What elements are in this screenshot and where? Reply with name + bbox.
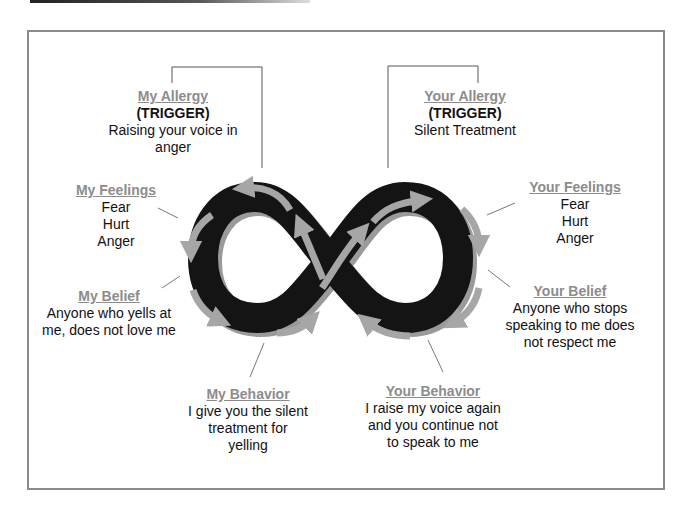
my-feelings-line-3: Anger bbox=[66, 233, 166, 250]
my-belief-label: My Belief Anyone who yells at me, does n… bbox=[34, 288, 184, 339]
my-allergy-trigger: (TRIGGER) bbox=[103, 105, 243, 122]
my-behavior-label: My Behavior I give you the silent treatm… bbox=[178, 386, 318, 454]
your-behavior-label: Your Behavior I raise my voice again and… bbox=[358, 383, 508, 451]
your-behavior-line-1: I raise my voice again bbox=[358, 400, 508, 417]
my-allergy-line-1: Raising your voice in bbox=[103, 122, 243, 139]
your-belief-label: Your Belief Anyone who stops speaking to… bbox=[500, 283, 640, 351]
your-allergy-trigger: (TRIGGER) bbox=[400, 105, 530, 122]
my-belief-line-2: me, does not love me bbox=[34, 322, 184, 339]
your-feelings-line-3: Anger bbox=[515, 230, 635, 247]
your-belief-line-2: speaking to me does bbox=[500, 317, 640, 334]
your-feelings-label: Your Feelings Fear Hurt Anger bbox=[515, 179, 635, 247]
my-feelings-line-2: Hurt bbox=[66, 216, 166, 233]
my-allergy-title: My Allergy bbox=[103, 88, 243, 105]
your-belief-line-3: not respect me bbox=[500, 334, 640, 351]
your-allergy-label: Your Allergy (TRIGGER) Silent Treatment bbox=[400, 88, 530, 139]
your-feelings-title: Your Feelings bbox=[515, 179, 635, 196]
my-allergy-line-2: anger bbox=[103, 139, 243, 156]
my-belief-line-1: Anyone who yells at bbox=[34, 305, 184, 322]
your-belief-line-1: Anyone who stops bbox=[500, 300, 640, 317]
my-behavior-line-2: treatment for bbox=[178, 420, 318, 437]
my-allergy-label: My Allergy (TRIGGER) Raising your voice … bbox=[103, 88, 243, 156]
your-feelings-line-1: Fear bbox=[515, 196, 635, 213]
infinity-cycle-graphic bbox=[0, 0, 680, 517]
my-belief-title: My Belief bbox=[34, 288, 184, 305]
your-behavior-line-2: and you continue not bbox=[358, 417, 508, 434]
my-behavior-line-3: yelling bbox=[178, 437, 318, 454]
your-allergy-title: Your Allergy bbox=[400, 88, 530, 105]
my-feelings-label: My Feelings Fear Hurt Anger bbox=[66, 182, 166, 250]
my-feelings-line-1: Fear bbox=[66, 199, 166, 216]
my-feelings-title: My Feelings bbox=[66, 182, 166, 199]
your-behavior-line-3: to speak to me bbox=[358, 434, 508, 451]
your-allergy-line-1: Silent Treatment bbox=[400, 122, 530, 139]
my-behavior-title: My Behavior bbox=[178, 386, 318, 403]
your-feelings-line-2: Hurt bbox=[515, 213, 635, 230]
your-behavior-title: Your Behavior bbox=[358, 383, 508, 400]
my-behavior-line-1: I give you the silent bbox=[178, 403, 318, 420]
infinity-loop-icon bbox=[203, 197, 462, 322]
your-belief-title: Your Belief bbox=[500, 283, 640, 300]
